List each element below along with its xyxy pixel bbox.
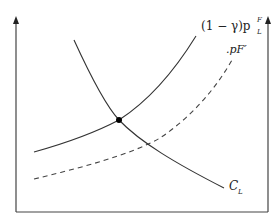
diagram-canvas: (1 − γ)p F L .pF′ C L [0, 0, 280, 221]
label-price-prime: .pF′ [226, 43, 247, 56]
label-foreign-price-sup: F [256, 16, 263, 24]
right-axis [265, 16, 271, 212]
label-foreign-price: (1 − γ)p [201, 19, 251, 33]
diagram-svg: (1 − γ)p F L .pF′ C L [0, 0, 280, 221]
label-foreign-price-sub: L [256, 28, 262, 36]
left-axis [13, 16, 19, 212]
label-cost-L: C [229, 179, 238, 193]
label-cost-L-sub: L [237, 188, 243, 196]
arrow-up-icon [265, 16, 271, 24]
arrow-up-icon [13, 16, 19, 24]
curve-price-prime-dashed [34, 60, 232, 179]
curve-cost-L [74, 40, 224, 188]
curve-foreign-price [34, 36, 196, 152]
intersection-point [116, 117, 122, 123]
